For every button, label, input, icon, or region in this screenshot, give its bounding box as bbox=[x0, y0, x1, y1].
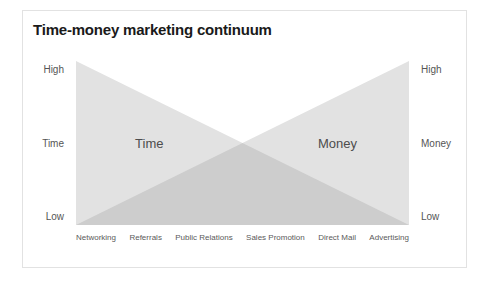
category-label-referrals: Referrals bbox=[129, 233, 161, 242]
time-wedge-label: Time bbox=[135, 136, 163, 151]
axis-right-label-money: Money bbox=[421, 138, 451, 149]
money-wedge-label: Money bbox=[318, 136, 357, 151]
category-label-networking: Networking bbox=[76, 233, 116, 242]
plot-area: High Time Low High Money Low Time Money bbox=[76, 61, 409, 225]
category-label-direct-mail: Direct Mail bbox=[318, 233, 356, 242]
figure-card: Time-money marketing continuum High Time… bbox=[22, 10, 467, 268]
category-label-sales-promotion: Sales Promotion bbox=[246, 233, 305, 242]
axis-left-label-high: High bbox=[43, 64, 64, 75]
category-label-advertising: Advertising bbox=[369, 233, 409, 242]
axis-left-label-time: Time bbox=[42, 138, 64, 149]
figure-title: Time-money marketing continuum bbox=[33, 21, 272, 38]
axis-left-label-low: Low bbox=[46, 211, 64, 222]
axis-right-label-high: High bbox=[421, 64, 442, 75]
continuum-triangles bbox=[76, 61, 409, 225]
axis-right-label-low: Low bbox=[421, 211, 439, 222]
category-label-public-relations: Public Relations bbox=[175, 233, 232, 242]
category-axis: Networking Referrals Public Relations Sa… bbox=[76, 233, 409, 242]
